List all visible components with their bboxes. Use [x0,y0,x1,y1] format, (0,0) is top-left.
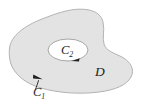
region-diagram-svg: C1 C2 D [0,0,144,108]
label-region-d: D [94,64,105,79]
figure-container: C1 C2 D [0,0,144,108]
label-c1-subscript: 1 [41,92,45,101]
label-c2: C2 [61,43,73,59]
label-c2-subscript: 2 [69,50,73,59]
